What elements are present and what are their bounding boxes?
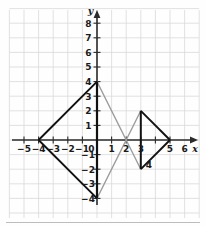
y-axis-label: y bbox=[87, 5, 95, 16]
y-tick-label-6: 6 bbox=[85, 48, 91, 58]
y-tick-label--1: −1 bbox=[81, 150, 95, 160]
x-tick-label-3: 3 bbox=[138, 144, 144, 154]
y-tick-label--3: −3 bbox=[81, 179, 95, 189]
y-tick-label-5: 5 bbox=[85, 62, 91, 72]
y-tick-label-1: 1 bbox=[85, 121, 91, 131]
x-tick-label--3: −3 bbox=[46, 144, 60, 154]
coordinate-plane-svg: −5 −4 −3 −2 −1 1 2 3 5 6 0 8 7 6 5 4 3 2… bbox=[0, 0, 206, 227]
y-tick-label--4: −4 bbox=[81, 194, 95, 204]
y-axis-arrow bbox=[94, 10, 101, 18]
y-tick-label-8: 8 bbox=[85, 19, 91, 29]
x-tick-label-5: 5 bbox=[167, 144, 173, 154]
grid-lines bbox=[9, 9, 199, 218]
x-tick-label--5: −5 bbox=[17, 144, 31, 154]
x-tick-label-1: 1 bbox=[108, 144, 114, 154]
graph-figure: −5 −4 −3 −2 −1 1 2 3 5 6 0 8 7 6 5 4 3 2… bbox=[0, 0, 206, 227]
y-tick-label-7: 7 bbox=[85, 33, 91, 43]
y-tick-label--2: −2 bbox=[81, 165, 95, 175]
y-tick-label-2: 2 bbox=[85, 106, 91, 116]
x-tick-label-6: 6 bbox=[181, 144, 187, 154]
x-axis-label: x bbox=[191, 143, 198, 154]
x-tick-label-2: 2 bbox=[123, 144, 129, 154]
segment-length-label: 4 bbox=[146, 160, 152, 170]
y-tick-label-4: 4 bbox=[85, 77, 91, 87]
y-tick-label-3: 3 bbox=[85, 92, 91, 102]
x-tick-label--2: −2 bbox=[61, 144, 75, 154]
x-tick-label--4: −4 bbox=[32, 144, 46, 154]
